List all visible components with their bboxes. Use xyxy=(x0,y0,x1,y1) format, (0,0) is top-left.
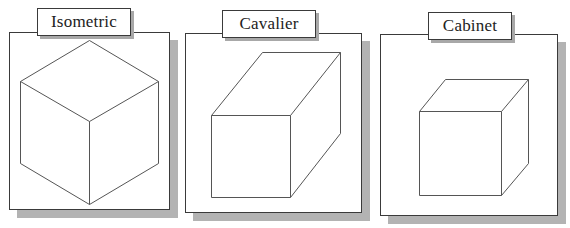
cavalier-cube xyxy=(212,53,341,198)
cube-drawings xyxy=(0,0,570,228)
cabinet-cube xyxy=(420,80,529,196)
isometric-cube xyxy=(21,41,159,205)
